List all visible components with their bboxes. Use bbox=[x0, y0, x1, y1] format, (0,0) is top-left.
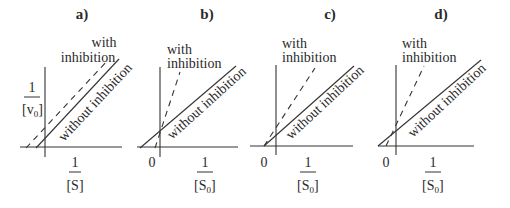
panel-title: d) bbox=[434, 6, 447, 23]
panel-title: a) bbox=[76, 6, 89, 23]
panel-a: a) with inhibition without inhibition 1 … bbox=[20, 6, 135, 193]
with-inhibition-label-2: inhibition bbox=[282, 50, 336, 65]
with-inhibition-label-2: inhibition bbox=[61, 50, 115, 65]
with-inhibition-label: with bbox=[167, 42, 192, 57]
x-axis-denominator: [S0] bbox=[422, 178, 444, 195]
with-inhibition-label-2: inhibition bbox=[402, 50, 456, 65]
without-inhibition-label: without inhibition bbox=[283, 63, 367, 143]
without-inhibition-label: without inhibition bbox=[55, 60, 135, 144]
x-axis-numerator: 1 bbox=[305, 155, 312, 170]
x-axis-numerator: 1 bbox=[72, 155, 79, 170]
without-inhibition-label: without inhibition bbox=[405, 61, 489, 141]
origin-label: 0 bbox=[383, 155, 390, 170]
x-axis-numerator: 1 bbox=[430, 155, 437, 170]
x-axis-denominator: [S] bbox=[66, 178, 83, 193]
lineweaver-burk-figure: a) with inhibition without inhibition 1 … bbox=[0, 0, 510, 208]
panel-c: c) with inhibition without inhibition 0 … bbox=[250, 6, 367, 195]
x-axis-denominator: [S0] bbox=[194, 178, 216, 195]
with-inhibition-label: with bbox=[282, 36, 307, 51]
without-inhibition-label: without inhibition bbox=[164, 64, 249, 143]
panel-d: d) with inhibition without inhibition 0 … bbox=[378, 6, 489, 195]
panel-title: c) bbox=[324, 6, 336, 23]
origin-label: 0 bbox=[261, 155, 268, 170]
origin-label: 0 bbox=[149, 155, 156, 170]
with-inhibition-label-2: inhibition bbox=[167, 56, 221, 71]
y-axis-numerator: 1 bbox=[29, 80, 36, 95]
x-axis-numerator: 1 bbox=[202, 155, 209, 170]
panel-title: b) bbox=[200, 6, 213, 23]
panel-b: b) with inhibition without inhibition 0 … bbox=[137, 6, 249, 195]
x-axis-denominator: [S0] bbox=[297, 178, 319, 195]
line-without-inhibition bbox=[36, 59, 119, 148]
with-inhibition-label: with bbox=[92, 35, 117, 50]
y-axis-denominator: [v0] bbox=[22, 102, 43, 119]
with-inhibition-label: with bbox=[402, 36, 427, 51]
